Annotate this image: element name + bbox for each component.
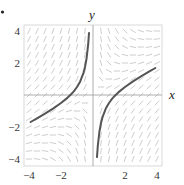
slope-segment (122, 78, 128, 81)
slope-segment (84, 52, 85, 58)
slope-segment (132, 140, 135, 146)
slope-segment (138, 30, 144, 32)
slope-segment (75, 125, 80, 130)
slope-segment (156, 156, 159, 162)
slope-segment (116, 148, 118, 154)
slope-segment (52, 36, 54, 42)
slope-segment (116, 124, 119, 130)
slope-segment (26, 134, 32, 136)
slope-segment (154, 69, 159, 72)
slope-segment (100, 68, 103, 74)
slope-segment (34, 126, 40, 129)
slope-segment (44, 44, 47, 50)
slope-segment (124, 124, 127, 130)
slope-segment (35, 68, 39, 73)
slope-segment (108, 148, 109, 154)
slope-segment (116, 116, 119, 122)
slope-segment (60, 36, 62, 42)
slope-segment (116, 132, 118, 138)
slope-segment (27, 44, 30, 50)
slope-segment (34, 143, 40, 144)
slope-segment (58, 118, 64, 120)
slope-segment (139, 132, 142, 138)
slope-segment (146, 77, 151, 81)
slope-segment (100, 52, 102, 58)
slope-segment (60, 28, 62, 34)
slope-segment (138, 70, 144, 73)
slope-segment (123, 29, 128, 34)
slope-segment (132, 148, 134, 154)
slope-segment (131, 101, 135, 106)
slope-segment (155, 109, 159, 114)
slope-segment (68, 28, 70, 34)
slope-segment (68, 44, 70, 50)
slope-segment (52, 44, 55, 50)
slope-segment (138, 38, 144, 39)
slope-segment (146, 62, 152, 65)
slope-segment (154, 62, 160, 65)
slope-segment (76, 148, 78, 154)
slope-segment (147, 140, 150, 146)
slope-segment (42, 158, 48, 160)
slope-segment (155, 140, 158, 146)
slope-segment (84, 84, 87, 90)
slope-segment (132, 156, 134, 162)
slope-segment (26, 142, 32, 144)
slope-segment (154, 77, 159, 81)
slope-segment (66, 126, 72, 128)
slope-segment (76, 44, 78, 50)
slope-segment (108, 116, 110, 122)
slope-segment (116, 156, 118, 162)
slope-segment (58, 142, 64, 145)
slope-segment (108, 44, 111, 50)
slope-segment (84, 132, 86, 138)
slope-segment (114, 62, 120, 64)
slope-segment (67, 141, 72, 146)
slope-segment (35, 101, 40, 105)
slope-segment (107, 52, 111, 57)
slope-segment (74, 118, 80, 121)
slope-segment (140, 156, 143, 162)
slope-segment (76, 156, 78, 162)
slope-segment (27, 52, 30, 57)
slope-segment (122, 37, 127, 41)
slope-segment (100, 108, 102, 114)
slope-segment (50, 142, 56, 143)
slope-segment (67, 156, 70, 161)
slope-segment (84, 116, 87, 122)
slope-segment (50, 150, 56, 152)
slope-segment (147, 124, 150, 129)
slope-segment (85, 36, 86, 42)
slope-segment (108, 124, 110, 130)
slope-segment (44, 28, 47, 34)
slope-segment (148, 156, 151, 162)
slope-segment (131, 116, 134, 121)
slope-segment (60, 60, 63, 66)
slope-segment (114, 53, 119, 57)
slope-segment (27, 68, 31, 73)
slope-segment (122, 46, 128, 49)
slope-segment (130, 38, 136, 40)
slope-segment (154, 54, 160, 56)
slope-segment (147, 101, 151, 106)
slope-segment (124, 140, 126, 146)
slope-segment (108, 156, 109, 162)
slope-segment (131, 124, 134, 130)
slope-segment (101, 156, 102, 162)
slope-segment (139, 108, 143, 113)
y-axis-label: y (87, 7, 95, 22)
slope-segment (50, 157, 55, 160)
slope-segment (43, 101, 48, 105)
slope-segment (106, 70, 112, 73)
slope-segment (100, 44, 101, 50)
slope-segment (36, 36, 39, 42)
y-tick-label: −4 (8, 153, 20, 165)
slope-segment (115, 100, 119, 105)
slope-segment (34, 134, 40, 136)
slope-segment (43, 76, 47, 81)
slope-segment (76, 52, 78, 58)
slope-segment (115, 28, 118, 33)
slope-segment (36, 28, 39, 34)
slope-segment (130, 46, 136, 47)
slope-segment (146, 31, 152, 32)
